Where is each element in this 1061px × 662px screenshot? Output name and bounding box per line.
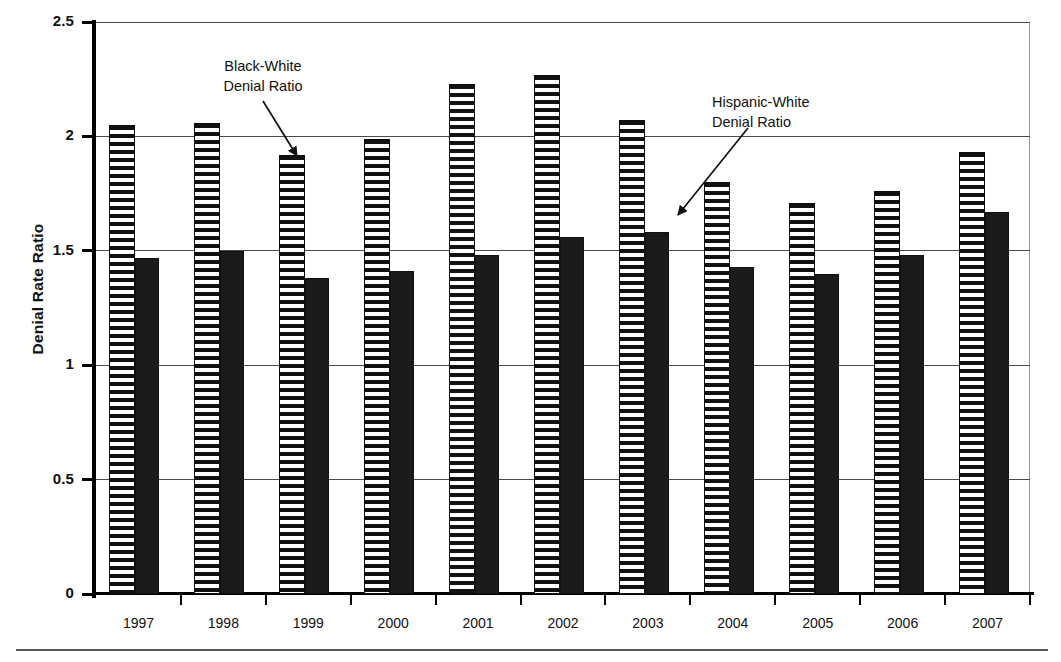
x-tick-2000 [435,594,437,605]
y-axis-label-0: 0 [2,584,74,601]
x-tick-1998 [265,594,267,605]
bar-2000-hispanic-white [390,271,414,594]
gridline-2.5 [96,22,1030,23]
bar-2004-black-white [704,182,730,594]
bar-1998-hispanic-white [220,251,244,594]
x-tick-2007 [1029,594,1031,605]
x-tick-2002 [604,594,606,605]
y-axis-label-2: 2 [2,126,74,143]
chart-figure: Denial Rate Ratio 00.511.522.51997199819… [0,0,1061,662]
bar-2002-hispanic-white [560,237,584,594]
bar-1999-hispanic-white [305,278,329,594]
bar-2005-hispanic-white [815,274,839,594]
x-axis-label-1998: 1998 [178,615,268,631]
x-axis-label-2000: 2000 [348,615,438,631]
x-tick-1997 [180,594,182,605]
x-tick-1999 [350,594,352,605]
y-axis-label-1: 1 [2,355,74,372]
x-axis-label-2007: 2007 [943,615,1033,631]
bar-2001-hispanic-white [475,255,499,594]
bar-1998-black-white [194,123,220,594]
y-tick-0.5 [82,478,94,481]
x-axis-label-1999: 1999 [263,615,353,631]
x-axis-label-2005: 2005 [773,615,863,631]
annotation-black-white-label: Black-White Denial Ratio [198,56,328,96]
x-tick-2004 [774,594,776,605]
bar-2001-black-white [449,84,475,594]
bar-2005-black-white [789,203,815,594]
x-axis-label-2003: 2003 [603,615,693,631]
bar-1999-black-white [279,155,305,594]
x-axis-label-2001: 2001 [433,615,523,631]
bar-2006-hispanic-white [900,255,924,594]
x-axis-label-1997: 1997 [93,615,183,631]
y-tick-0 [82,593,94,596]
x-tick-2005 [859,594,861,605]
y-tick-1 [82,364,94,367]
bar-2004-hispanic-white [730,267,754,594]
x-tick-2006 [944,594,946,605]
x-tick-2003 [689,594,691,605]
bar-2007-hispanic-white [985,212,1009,594]
footer-rule [16,649,1048,651]
x-axis-label-2006: 2006 [858,615,948,631]
x-axis-label-2004: 2004 [688,615,778,631]
y-axis-label-2.5: 2.5 [2,12,74,29]
x-tick-2001 [520,594,522,605]
annotation-hispanic-white-label: Hispanic-White Denial Ratio [712,92,872,132]
bar-2006-black-white [874,191,900,594]
x-axis-label-2002: 2002 [518,615,608,631]
bar-1997-hispanic-white [135,258,159,594]
bar-2000-black-white [364,139,390,594]
bar-2002-black-white [534,75,560,594]
y-tick-2.5 [82,21,94,24]
bar-2007-black-white [959,152,985,594]
bar-2003-hispanic-white [645,232,669,594]
y-tick-1.5 [82,249,94,252]
gridline-2 [96,136,1030,137]
y-tick-2 [82,135,94,138]
y-axis-label-0.5: 0.5 [2,470,74,487]
bar-2003-black-white [619,120,645,594]
y-axis-line [92,20,96,598]
y-axis-label-1.5: 1.5 [2,241,74,258]
bar-1997-black-white [109,125,135,594]
